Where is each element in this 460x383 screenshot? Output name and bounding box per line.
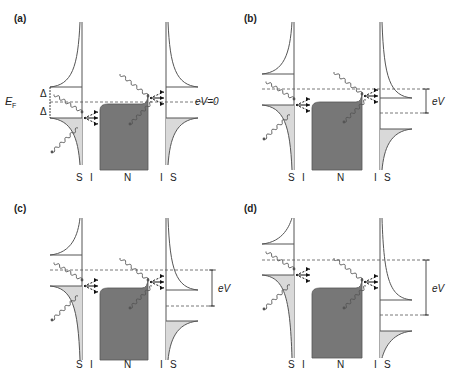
dos-curve-upper <box>168 22 198 87</box>
arrow-head-icon <box>306 273 310 277</box>
layer-label-i: I <box>302 359 305 370</box>
arrow-head-icon <box>160 90 164 94</box>
photon-wave-icon <box>266 82 294 100</box>
arrow-head-icon <box>94 122 98 126</box>
arrow-head-icon <box>81 111 84 114</box>
arrow-head-icon <box>293 98 296 101</box>
arrow-head-icon <box>129 123 132 126</box>
dos-curve-upper <box>262 218 292 244</box>
arrow-head-icon <box>94 116 98 120</box>
panel-c: (c)SINISeV <box>14 203 232 370</box>
arrow-head-icon <box>306 97 310 101</box>
delta-label-upper: Δ <box>40 88 47 99</box>
panel-b: (b)SINISeV <box>244 13 446 183</box>
arrow-head-icon <box>147 95 150 98</box>
fermi-energy-subscript: F <box>12 102 16 109</box>
panel-label: (a) <box>14 13 26 24</box>
layer-label-s: S <box>76 172 83 183</box>
panel-d: (d)SINISeV <box>244 203 446 370</box>
arrow-head-icon <box>306 103 310 107</box>
occupied-states-fill <box>166 118 198 165</box>
arrow-head-icon <box>94 290 98 294</box>
layer-label-s: S <box>288 172 295 183</box>
arrow-head-icon <box>263 138 266 141</box>
occupied-states-fill <box>380 331 412 358</box>
layer-label-n: N <box>124 172 131 183</box>
layer-label-i: I <box>90 359 93 370</box>
arrow-head-icon <box>293 268 296 271</box>
layer-label-n: N <box>337 359 344 370</box>
bias-voltage-label: eV=0 <box>195 96 219 107</box>
arrow-head-icon <box>361 93 364 96</box>
normal-metal-block <box>100 94 148 170</box>
layer-label-i: I <box>160 172 163 183</box>
dos-curve-upper <box>382 218 412 300</box>
arrow-head-icon <box>374 274 378 278</box>
delta-label-lower: Δ <box>40 106 47 117</box>
layer-label-n: N <box>337 172 344 183</box>
dos-curve-upper <box>382 22 412 98</box>
dos-curve-upper <box>168 218 198 290</box>
arrow-head-icon <box>51 319 54 322</box>
layer-label-i: I <box>302 172 305 183</box>
normal-metal-block <box>312 92 362 170</box>
arrow-head-icon <box>94 278 98 282</box>
arrow-head-icon <box>374 280 378 284</box>
bias-voltage-label: eV <box>432 283 446 294</box>
photon-wave-icon <box>120 258 148 280</box>
arrow-head-icon <box>94 110 98 114</box>
layer-label-i: I <box>374 172 377 183</box>
layer-label-s: S <box>170 359 177 370</box>
layer-label-i: I <box>160 359 163 370</box>
photon-wave-icon <box>120 74 148 96</box>
sinis-band-diagram-figure: (a)SINISEFΔΔeV=0(b)SINISeV(c)SINISeV(d)S… <box>0 0 460 383</box>
arrow-head-icon <box>306 267 310 271</box>
layer-label-i: I <box>374 359 377 370</box>
dos-curve-upper <box>50 22 80 87</box>
arrow-head-icon <box>94 284 98 288</box>
panel-label: (b) <box>244 13 257 24</box>
panel-label: (d) <box>244 203 257 214</box>
arrow-head-icon <box>160 274 164 278</box>
layer-label-n: N <box>124 359 131 370</box>
dos-curve-upper <box>262 22 292 74</box>
normal-metal-block <box>312 278 362 358</box>
arrow-head-icon <box>374 286 378 290</box>
layer-label-i: I <box>90 172 93 183</box>
arrow-head-icon <box>81 279 84 282</box>
arrow-head-icon <box>374 100 378 104</box>
arrow-head-icon <box>306 279 310 283</box>
photon-wave-icon <box>54 263 82 281</box>
arrow-head-icon <box>343 121 346 124</box>
arrow-head-icon <box>374 94 378 98</box>
arrow-head-icon <box>147 279 150 282</box>
layer-label-s: S <box>76 359 83 370</box>
arrow-head-icon <box>306 109 310 113</box>
arrow-head-icon <box>51 151 54 154</box>
arrow-head-icon <box>361 279 364 282</box>
photon-wave-icon <box>54 95 82 113</box>
panel-a: (a)SINISEFΔΔeV=0 <box>5 13 219 183</box>
arrow-head-icon <box>160 286 164 290</box>
layer-label-s: S <box>170 172 177 183</box>
dos-curve-upper <box>50 218 80 255</box>
photon-wave-icon <box>334 258 362 280</box>
arrow-head-icon <box>160 96 164 100</box>
layer-label-s: S <box>288 359 295 370</box>
photon-wave-icon <box>334 72 362 94</box>
occupied-states-fill <box>50 118 82 165</box>
arrow-head-icon <box>263 308 266 311</box>
arrow-head-icon <box>343 307 346 310</box>
normal-metal-block <box>100 278 148 360</box>
arrow-head-icon <box>160 102 164 106</box>
arrow-head-icon <box>129 307 132 310</box>
layer-label-s: S <box>384 359 391 370</box>
bias-voltage-label: eV <box>218 283 232 294</box>
panel-label: (c) <box>14 203 26 214</box>
bias-voltage-label: eV <box>432 96 446 107</box>
arrow-head-icon <box>160 280 164 284</box>
layer-label-s: S <box>384 172 391 183</box>
